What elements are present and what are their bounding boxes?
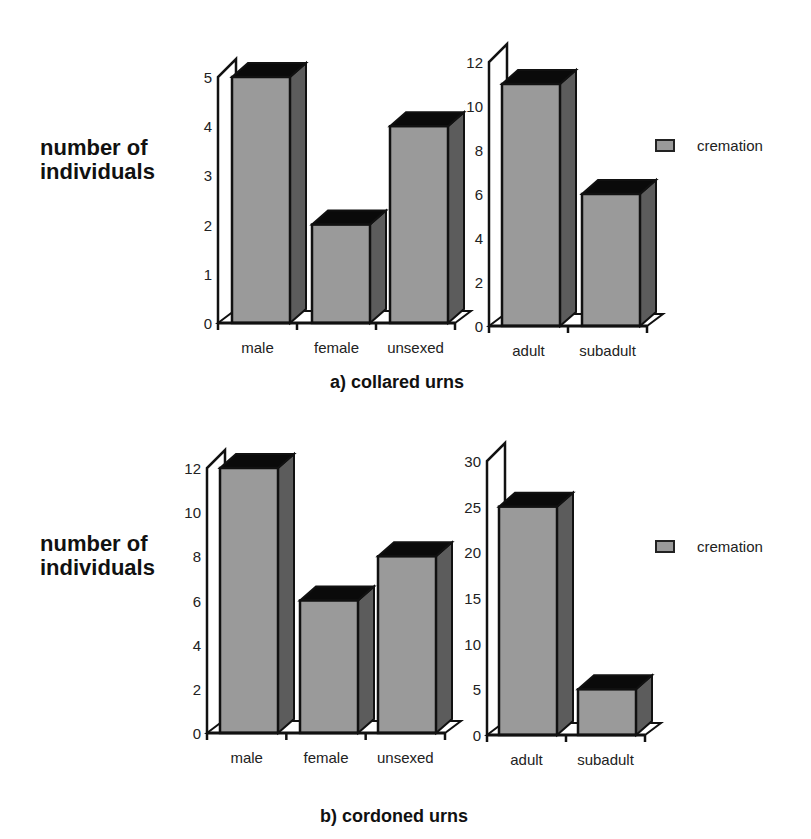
bar-male	[232, 63, 306, 323]
y-tick-label: 25	[464, 499, 481, 516]
x-tick-label: subadult	[579, 342, 637, 359]
y-tick-label: 0	[475, 318, 483, 335]
y-tick-label: 2	[193, 681, 201, 698]
x-tick-label: female	[303, 749, 348, 766]
y-tick-label: 15	[464, 590, 481, 607]
bar-adult	[499, 493, 573, 735]
chart-1-panel-0: 024681012malefemaleunsexed	[184, 450, 461, 766]
bar-female	[312, 211, 386, 323]
y-tick-label: 0	[193, 725, 201, 742]
chart-canvas: 012345malefemaleunsexed024681012adultsub…	[0, 0, 811, 839]
y-tick-label: 6	[193, 593, 201, 610]
x-tick-label: male	[241, 339, 274, 356]
y-tick-label: 10	[464, 636, 481, 653]
x-tick-label: adult	[512, 342, 545, 359]
y-tick-label: 5	[473, 681, 481, 698]
y-tick-label: 0	[473, 727, 481, 744]
x-tick-label: female	[314, 339, 359, 356]
y-tick-label: 3	[204, 167, 212, 184]
y-tick-label: 4	[204, 118, 212, 135]
y-tick-label: 30	[464, 453, 481, 470]
bar-adult	[502, 70, 576, 326]
bar-unsexed	[378, 542, 452, 733]
y-tick-label: 1	[204, 266, 212, 283]
y-tick-label: 12	[184, 460, 201, 477]
y-tick-label: 4	[475, 230, 483, 247]
y-tick-label: 8	[193, 548, 201, 565]
y-tick-label: 8	[475, 142, 483, 159]
bar-unsexed	[390, 112, 464, 323]
bar-female	[300, 587, 374, 734]
x-tick-label: unsexed	[387, 339, 444, 356]
chart-1-panel-1: 051015202530adultsubadult	[464, 443, 661, 768]
y-tick-label: 5	[204, 69, 212, 86]
y-tick-label: 12	[466, 54, 483, 71]
x-tick-label: male	[230, 749, 263, 766]
x-tick-label: adult	[510, 751, 543, 768]
y-tick-label: 2	[204, 217, 212, 234]
y-tick-label: 10	[184, 504, 201, 521]
y-tick-label: 4	[193, 637, 201, 654]
x-tick-label: subadult	[577, 751, 635, 768]
y-tick-label: 0	[204, 315, 212, 332]
bar-subadult	[582, 180, 656, 326]
y-tick-label: 2	[475, 274, 483, 291]
y-tick-label: 10	[466, 98, 483, 115]
bar-subadult	[578, 675, 652, 735]
chart-0-panel-0: 012345malefemaleunsexed	[204, 59, 471, 356]
chart-0-panel-1: 024681012adultsubadult	[466, 44, 663, 359]
x-tick-label: unsexed	[377, 749, 434, 766]
bar-male	[220, 454, 294, 733]
y-tick-label: 20	[464, 544, 481, 561]
y-tick-label: 6	[475, 186, 483, 203]
